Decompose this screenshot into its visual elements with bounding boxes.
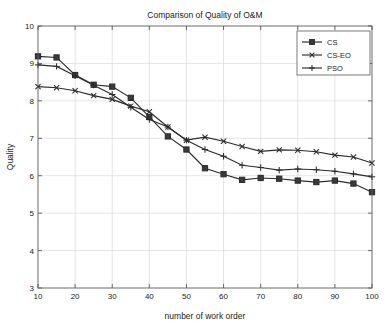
marker-square [221,172,226,177]
y-tick-label: 6 [30,172,35,181]
marker-square [128,95,133,100]
x-tick-label: 50 [182,292,191,301]
y-tick-label: 4 [30,247,35,256]
marker-square [54,55,59,60]
x-tick-label: 60 [219,292,228,301]
marker-square [310,40,315,45]
marker-square [295,178,300,183]
marker-square [332,178,337,183]
legend-label: CS [327,38,337,47]
x-tick-label: 100 [365,292,379,301]
x-tick-label: 10 [34,292,43,301]
marker-square [258,175,263,180]
x-tick-label: 20 [71,292,80,301]
legend-label: PSO [327,64,343,73]
y-tick-label: 8 [30,97,35,106]
marker-square [202,166,207,171]
y-tick-label: 10 [25,22,34,31]
marker-square [240,177,245,182]
y-tick-label: 5 [30,209,35,218]
marker-square [184,147,189,152]
y-tick-label: 3 [30,284,35,293]
marker-square [351,181,356,186]
x-tick-label: 90 [330,292,339,301]
y-tick-label: 7 [30,134,35,143]
x-tick-label: 80 [293,292,302,301]
x-tick-label: 40 [145,292,154,301]
legend-label: CS-EO [327,51,351,60]
y-tick-label: 9 [30,59,35,68]
chart-figure: 102030405060708090100345678910 Compariso… [0,0,392,326]
x-tick-label: 70 [256,292,265,301]
marker-square [110,84,115,89]
marker-square [165,134,170,139]
marker-square [277,176,282,181]
x-tick-label: 30 [108,292,117,301]
chart-legend: CSCS-EOPSO [297,31,370,75]
x-axis-title: number of work order [165,311,246,321]
line-chart: 102030405060708090100345678910 Compariso… [0,0,392,326]
marker-square [314,179,319,184]
y-axis-title: Quality [5,143,15,170]
chart-title: Comparison of Quality of O&M [147,10,262,20]
